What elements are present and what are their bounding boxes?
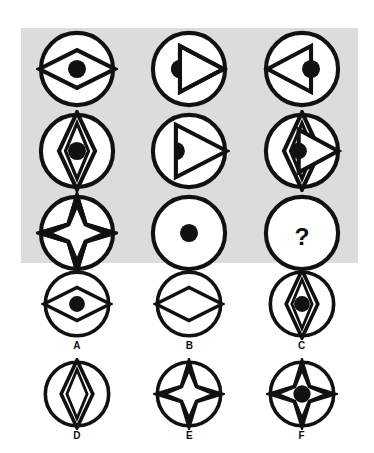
answer-option-a[interactable]: A (21, 268, 133, 358)
circle-right-triangle-halfdot-icon (148, 28, 230, 110)
circle-question-mark-icon: ? (261, 192, 343, 274)
matrix-reasoning-puzzle: ? A (0, 0, 374, 453)
matrix-cell-row1-col1[interactable] (21, 28, 133, 110)
matrix-grid: ? (21, 28, 358, 263)
circle-horizontal-diamond-dot-icon (36, 28, 118, 110)
answer-option-label-d: D (73, 431, 81, 441)
circle-vertical-diamond-dot-icon (36, 110, 118, 192)
matrix-cell-row1-col2[interactable] (133, 28, 245, 110)
matrix-cell-row1-col3[interactable] (246, 28, 358, 110)
answer-option-label-e: E (186, 431, 193, 441)
circle-four-point-star-icon (153, 358, 225, 430)
answer-option-label-f: F (299, 431, 306, 441)
answer-options-grid: A B (21, 268, 358, 448)
circle-dot-icon (148, 192, 230, 274)
answer-option-d[interactable]: D (21, 358, 133, 448)
matrix-panel: ? (21, 28, 358, 263)
matrix-cell-row2-col3[interactable] (246, 110, 358, 192)
answer-option-c[interactable]: C (246, 268, 358, 358)
matrix-cell-row3-col2[interactable] (133, 192, 245, 274)
answer-option-label-c: C (298, 341, 306, 351)
circle-vertical-diamond-dot-icon (266, 268, 338, 340)
circle-vertical-diamond-icon (41, 358, 113, 430)
matrix-cell-row2-col2[interactable] (133, 110, 245, 192)
matrix-cell-row2-col1[interactable] (21, 110, 133, 192)
circle-horizontal-diamond-icon (153, 268, 225, 340)
question-mark-glyph: ? (294, 223, 309, 250)
matrix-cell-row3-col1[interactable] (21, 192, 133, 274)
answer-option-e[interactable]: E (133, 358, 245, 448)
circle-vertical-diamond-right-triangle-halfdot-icon (261, 110, 343, 192)
circle-four-point-star-dot-icon (266, 358, 338, 430)
circle-four-point-star-icon (36, 192, 118, 274)
answer-option-label-a: A (73, 341, 81, 351)
answer-option-f[interactable]: F (246, 358, 358, 448)
answer-options-area: A B (21, 268, 358, 448)
circle-right-triangle-halfdot-large-icon (148, 110, 230, 192)
answer-option-label-b: B (186, 341, 194, 351)
circle-horizontal-diamond-dot-icon (41, 268, 113, 340)
circle-left-triangle-halfdot-icon (261, 28, 343, 110)
matrix-cell-row3-col3[interactable]: ? (246, 192, 358, 274)
answer-option-b[interactable]: B (133, 268, 245, 358)
